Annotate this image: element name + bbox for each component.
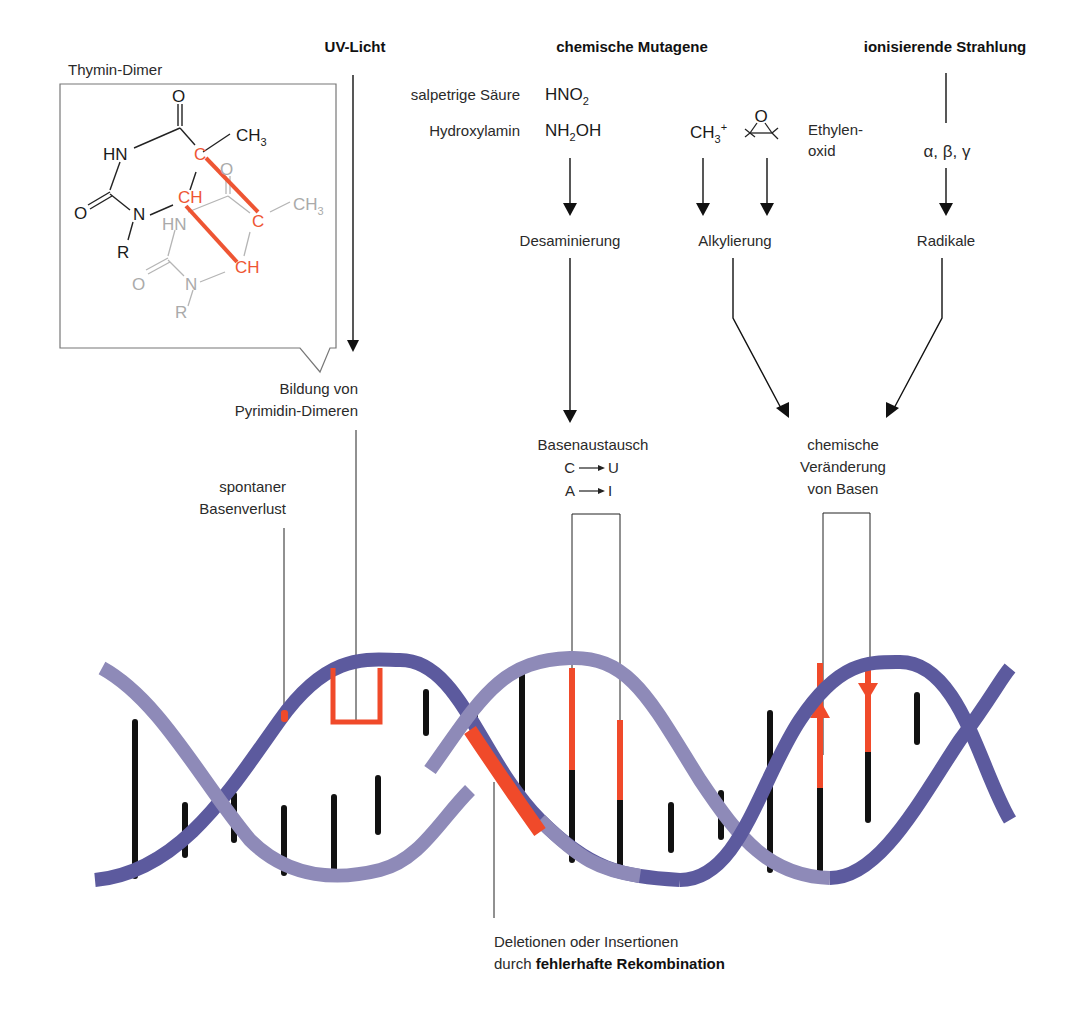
atom-c-red: C [194, 145, 206, 164]
alkylierung-label: Alkylierung [698, 232, 771, 249]
chem-change-line3: von Basen [808, 480, 879, 497]
recombination-segment [470, 730, 540, 832]
chem-change-line2: Veränderung [800, 458, 886, 475]
uv-result-line1: Bildung von [280, 380, 358, 397]
atom-hn-gray: HN [162, 215, 187, 234]
uv-arrowhead-icon [347, 340, 359, 352]
a-to-i-exchange: A I [565, 482, 612, 499]
radikale-label: Radikale [917, 232, 975, 249]
arrowhead-icon [563, 410, 577, 423]
atom-o-gray: O [220, 160, 233, 179]
radikale-to-change-arrow [892, 258, 942, 412]
atom-o-top: O [172, 87, 185, 106]
strand-dark-segment-2 [680, 662, 1010, 880]
basenaustausch-label: Basenaustausch [538, 436, 649, 453]
dna-helix [95, 658, 1010, 880]
thymin-dimer-title: Thymin-Dimer [68, 61, 162, 78]
base-loss-marker [281, 710, 288, 722]
header-ionizing-radiation: ionisierende Strahlung [864, 38, 1027, 55]
salpetrige-saeure-label: salpetrige Säure [411, 86, 520, 103]
atom-ch3: CH3 [236, 126, 267, 148]
strand-light-segment-3 [540, 820, 640, 876]
nh2oh-formula: NH2OH [545, 121, 601, 143]
hno2-formula: HNO2 [545, 85, 589, 107]
atom-o-gray2: O [132, 275, 145, 294]
strand-dark-segment-1 [95, 660, 680, 880]
mutation-diagram: UV-Licht chemische Mutagene ionisierende… [0, 0, 1075, 1018]
atom-r: R [117, 243, 129, 262]
bottom-caption-line1: Deletionen oder Insertionen [494, 933, 678, 950]
spontan-line1: spontaner [219, 478, 286, 495]
atom-o-left: O [74, 204, 87, 223]
methyl-cation: CH3+ [690, 121, 727, 145]
chem-change-line1: chemische [807, 436, 879, 453]
arrowhead-icon [563, 203, 577, 216]
arrowhead-icon [760, 203, 774, 216]
arrowhead-icon [939, 203, 953, 216]
thymin-dimer-callout-box [60, 84, 336, 372]
atom-hn: HN [103, 145, 128, 164]
desaminierung-label: Desaminierung [520, 232, 621, 249]
svg-text:U: U [608, 459, 619, 476]
thymin-dimer-structure: O HN C CH3 O N CH R O HN C CH3 CH O N R [74, 87, 324, 322]
hydroxylamin-label: Hydroxylamin [429, 122, 520, 139]
svg-text:I: I [608, 482, 612, 499]
atom-n-gray: N [185, 275, 197, 294]
header-uv-light: UV-Licht [325, 38, 386, 55]
atom-c-red2: C [252, 212, 264, 231]
uv-result-line2: Pyrimidin-Dimeren [235, 402, 358, 419]
c-to-u-exchange: C U [564, 459, 619, 476]
arrowhead-icon [696, 203, 710, 216]
epoxide-structure: O [745, 107, 778, 139]
arrow-down-icon [858, 683, 878, 700]
atom-r-gray: R [175, 303, 187, 322]
bottom-caption-line2: durch fehlerhafte Rekombination [494, 955, 725, 972]
arrowhead-icon [886, 402, 899, 418]
atom-ch-red2: CH [235, 258, 260, 277]
atom-ch-red: CH [178, 188, 203, 207]
ethylenoxid-label-line1: Ethylen- [808, 121, 863, 138]
atom-n: N [133, 205, 145, 224]
svg-text:C: C [564, 459, 575, 476]
header-chemical-mutagens: chemische Mutagene [556, 38, 708, 55]
svg-text:A: A [565, 482, 575, 499]
radiation-types: α, β, γ [924, 142, 971, 161]
arrowhead-icon [776, 402, 789, 418]
alkylierung-to-change-arrow [733, 258, 783, 412]
ethylenoxid-label-line2: oxid [808, 142, 836, 159]
atom-ch3-gray: CH3 [293, 195, 324, 217]
spontan-line2: Basenverlust [199, 500, 287, 517]
